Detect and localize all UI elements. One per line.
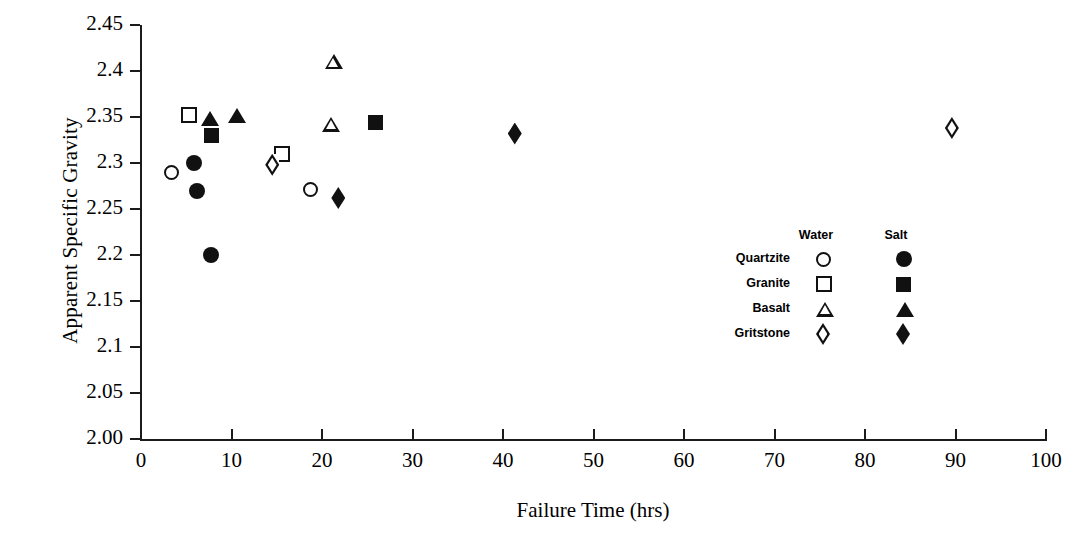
data-point [325,54,343,69]
x-tick-label: 60 [654,448,714,473]
y-tick-label-wrap: 2.3 [55,149,123,174]
x-tick-mark [140,429,142,440]
y-axis-title: Apparent Specific Gravity [58,21,83,441]
y-tick-label: 2.15 [55,287,123,312]
circle-open-marker [164,165,179,180]
circle-open-marker [303,182,318,197]
triangle-open-icon [816,302,834,317]
y-tick-mark [130,24,140,26]
y-tick-mark [130,392,140,394]
legend-symbol-salt [896,323,910,345]
x-tick-mark [231,429,233,440]
diamond-open-marker [265,154,279,176]
data-point [265,154,279,176]
scatter-chart: Apparent Specific Gravity Failure Time (… [0,0,1091,548]
legend-label-gritstone: Gritstone [690,326,790,340]
triangle-open-marker [322,117,340,132]
triangle-open-marker [325,54,343,69]
legend-symbol-water [816,252,831,267]
x-tick-label: 20 [292,448,352,473]
square-open-icon [816,276,832,292]
y-tick-label: 2.3 [55,149,123,174]
x-tick-label: 80 [835,448,895,473]
data-point [203,247,219,263]
data-point [186,155,202,171]
data-point [189,183,205,199]
y-tick-mark [130,208,140,210]
y-tick-label-wrap: 2.00 [55,425,123,450]
y-axis-line [140,25,142,441]
diamond-fill-marker [331,187,345,209]
circle-fill-marker [186,155,202,171]
legend-symbol-salt [896,251,912,267]
legend-label-granite: Granite [690,276,790,290]
y-tick-label: 2.45 [55,11,123,36]
x-tick-label: 0 [111,448,171,473]
data-point [303,182,318,197]
x-tick-mark [774,429,776,440]
square-fill-marker [368,115,383,130]
x-tick-label: 10 [202,448,262,473]
y-tick-label: 2.25 [55,195,123,220]
circle-open-icon [816,252,831,267]
data-point [181,107,197,123]
circle-fill-marker [189,183,205,199]
y-tick-mark [130,116,140,118]
data-point [204,128,219,143]
x-tick-mark [593,429,595,440]
y-tick-label-wrap: 2.1 [55,333,123,358]
x-tick-mark [683,429,685,440]
circle-fill-marker [203,247,219,263]
triangle-fill-marker [228,108,246,123]
y-tick-label: 2.4 [55,57,123,82]
y-tick-mark [130,300,140,302]
y-tick-label-wrap: 2.35 [55,103,123,128]
y-tick-label: 2.00 [55,425,123,450]
circle-fill-icon [896,251,912,267]
diamond-open-marker [945,117,959,139]
triangle-fill-marker [201,111,219,126]
legend-symbol-water [816,302,834,317]
y-tick-mark [130,438,140,440]
data-point [368,115,383,130]
legend-symbol-water [816,276,832,292]
y-tick-mark [130,346,140,348]
legend-symbol-water [816,323,830,345]
y-tick-mark [130,70,140,72]
data-point [322,117,340,132]
legend-symbol-salt [896,277,911,292]
x-tick-mark [1045,429,1047,440]
x-tick-mark [502,429,504,440]
x-tick-label: 100 [1016,448,1076,473]
y-tick-mark [130,162,140,164]
y-tick-label-wrap: 2.05 [55,379,123,404]
data-point [508,123,522,145]
data-point [945,117,959,139]
data-point [164,165,179,180]
x-tick-mark [955,429,957,440]
square-fill-icon [896,277,911,292]
triangle-fill-icon [896,302,914,317]
x-tick-mark [864,429,866,440]
data-point [228,108,246,123]
x-tick-label: 70 [745,448,805,473]
legend-symbol-salt [896,302,914,317]
y-tick-label-wrap: 2.15 [55,287,123,312]
x-tick-label: 50 [564,448,624,473]
x-tick-label: 40 [473,448,533,473]
data-point [201,111,219,126]
diamond-fill-icon [896,323,910,345]
y-tick-label-wrap: 2.45 [55,11,123,36]
y-tick-label: 2.2 [55,241,123,266]
square-fill-marker [204,128,219,143]
legend-column-water: Water [781,228,851,242]
x-tick-label: 30 [383,448,443,473]
x-tick-mark [321,429,323,440]
x-axis-title: Failure Time (hrs) [140,498,1046,523]
square-open-marker [181,107,197,123]
legend-label-quartzite: Quartzite [690,251,790,265]
y-tick-label: 2.35 [55,103,123,128]
y-tick-label: 2.05 [55,379,123,404]
y-tick-label-wrap: 2.2 [55,241,123,266]
x-tick-label: 90 [926,448,986,473]
